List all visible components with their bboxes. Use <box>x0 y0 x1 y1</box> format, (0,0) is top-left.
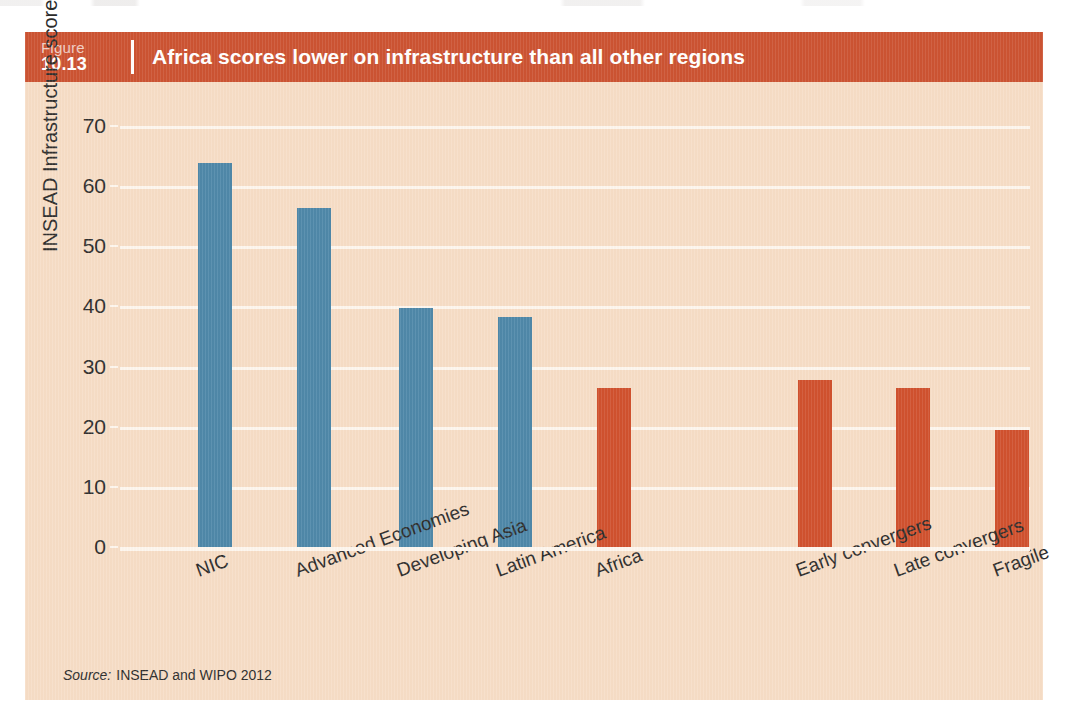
y-axis-tick-label: 60 <box>83 174 106 198</box>
y-axis-title: INSEAD Infrastructure score <box>39 0 62 252</box>
x-axis-category-label: NIC <box>193 550 231 582</box>
plot-area: 706050403020100 NICAdvanced EconomiesDev… <box>120 126 1030 547</box>
y-axis-tick-mark <box>110 486 118 488</box>
bar <box>198 163 232 547</box>
y-axis-tick-mark <box>110 426 118 428</box>
y-axis-tick-mark <box>110 546 118 548</box>
gridline <box>120 126 1030 129</box>
gridline <box>120 246 1030 249</box>
y-axis-tick-label: 0 <box>94 535 106 559</box>
plot-wrapper: INSEAD Infrastructure score 706050403020… <box>25 82 1043 700</box>
gridline <box>120 367 1030 370</box>
y-axis-tick-mark <box>110 366 118 368</box>
x-axis-baseline <box>120 547 1030 551</box>
gridline <box>120 306 1030 309</box>
y-axis-tick-mark <box>110 125 118 127</box>
y-axis-tick-label: 10 <box>83 475 106 499</box>
source-note: Source:INSEAD and WIPO 2012 <box>63 667 272 683</box>
y-axis-tick-label: 40 <box>83 294 106 318</box>
gridline <box>120 487 1030 490</box>
header-divider <box>131 40 134 74</box>
y-axis-tick-label: 30 <box>83 355 106 379</box>
figure-title: Africa scores lower on infrastructure th… <box>152 45 745 69</box>
y-axis-tick-label: 20 <box>83 415 106 439</box>
scan-artifact-strip <box>0 0 1071 6</box>
figure-panel: Figure 10.13 Africa scores lower on infr… <box>25 32 1043 700</box>
bar <box>498 317 532 547</box>
source-label: Source: <box>63 667 111 683</box>
y-axis-tick-label: 70 <box>83 114 106 138</box>
y-axis-tick-mark <box>110 305 118 307</box>
source-value: INSEAD and WIPO 2012 <box>116 667 272 683</box>
y-axis-tick-mark <box>110 185 118 187</box>
gridline <box>120 427 1030 430</box>
gridline <box>120 186 1030 189</box>
y-axis-tick-mark <box>110 245 118 247</box>
bar <box>798 380 832 547</box>
figure-header-bar: Figure 10.13 Africa scores lower on infr… <box>25 32 1043 82</box>
y-axis-tick-label: 50 <box>83 234 106 258</box>
bar <box>297 208 331 547</box>
